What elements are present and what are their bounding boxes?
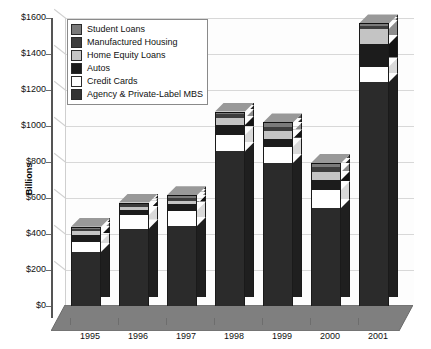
legend-item: Credit Cards: [71, 75, 203, 88]
bar-segment: [119, 210, 149, 215]
bar-2000: [311, 18, 341, 306]
bar-top-edge: [263, 122, 293, 123]
x-axis-tick-mark: [70, 318, 71, 325]
bar-segment-side: [197, 217, 206, 297]
bar-segment: [359, 44, 389, 67]
bar-segment-side: [101, 243, 110, 297]
y-axis-tick-mark: [46, 198, 51, 199]
bar-segment: [263, 127, 293, 132]
chart-legend: Student LoansManufactured HousingHome Eq…: [67, 19, 208, 105]
y-axis-tick-mark: [46, 270, 51, 271]
y-axis-tick-label: $1600: [6, 13, 46, 22]
gridline-depth: [54, 81, 66, 91]
bar-segment: [263, 131, 293, 138]
x-axis-tick-mark: [358, 318, 359, 325]
bar-segment: [215, 114, 245, 118]
bar-segment: [263, 147, 293, 163]
y-axis-tick-label: $1200: [6, 85, 46, 94]
gridline-depth: [54, 189, 66, 199]
y-axis-tick-label: $200: [6, 265, 46, 274]
bar-top-edge: [167, 195, 197, 196]
y-axis-tick-mark: [46, 54, 51, 55]
gridline-depth: [54, 117, 66, 127]
bar-segment: [119, 204, 149, 207]
bar-segment: [359, 29, 389, 44]
y-axis-tick-mark: [46, 90, 51, 91]
x-axis-tick-mark: [166, 318, 167, 325]
legend-item: Home Equity Loans: [71, 49, 203, 62]
bar-segment: [359, 26, 389, 29]
x-axis-tick-mark: [214, 318, 215, 325]
bar-segment: [167, 198, 197, 201]
y-axis-tick-label: $800: [6, 157, 46, 166]
bar-segment: [215, 151, 245, 306]
bar-segment-side: [245, 142, 254, 297]
bar-top-edge: [215, 112, 245, 113]
gridline-depth: [54, 153, 66, 163]
y-axis-tick-label: $1400: [6, 49, 46, 58]
bar-1998: [215, 18, 245, 306]
bar-segment: [311, 167, 341, 172]
x-axis-tick-label: 1999: [255, 331, 309, 341]
bar-segment: [71, 235, 101, 242]
bar-segment: [167, 201, 197, 205]
legend-swatch-icon: [71, 50, 82, 61]
legend-item-label: Agency & Private-Label MBS: [87, 90, 203, 99]
bar-segment: [311, 190, 341, 208]
legend-item: Student Loans: [71, 23, 203, 36]
bar-segment: [215, 125, 245, 135]
bar-segment: [71, 231, 101, 235]
bar-segment: [119, 229, 149, 306]
y-axis-tick-mark: [46, 234, 51, 235]
x-axis-tick-label: 1996: [111, 331, 165, 341]
x-axis-tick-label: 2000: [303, 331, 357, 341]
gridline-depth: [54, 261, 66, 271]
bar-segment-side: [341, 199, 350, 297]
y-axis-tick-mark: [46, 306, 51, 307]
bar-segment-side: [389, 73, 398, 297]
x-axis-tick-mark: [310, 318, 311, 325]
legend-item-label: Credit Cards: [87, 77, 138, 86]
bar-top-edge: [311, 163, 341, 164]
legend-swatch-icon: [71, 24, 82, 35]
gridline-depth: [54, 225, 66, 235]
gridline-depth: [54, 9, 66, 19]
bar-segment-side: [149, 220, 158, 297]
x-axis-tick-label: 2001: [351, 331, 405, 341]
bar-1999: [263, 18, 293, 306]
bar-segment: [263, 163, 293, 306]
gridline-depth: [54, 45, 66, 55]
y-axis-tick-label: $1000: [6, 121, 46, 130]
bar-segment: [359, 82, 389, 306]
legend-swatch-icon: [71, 76, 82, 87]
x-axis-tick-label: 1998: [207, 331, 261, 341]
x-axis-tick-label: 1997: [159, 331, 213, 341]
bar-segment: [311, 208, 341, 306]
bar-2001: [359, 18, 389, 306]
bar-segment: [311, 180, 341, 190]
y-axis-tick-label: $0: [6, 301, 46, 310]
bar-segment: [167, 226, 197, 306]
bar-segment: [119, 207, 149, 210]
bar-top-edge: [359, 23, 389, 24]
bar-segment: [71, 229, 101, 232]
bar-segment: [215, 135, 245, 151]
bar-top-edge: [119, 203, 149, 204]
legend-item-label: Home Equity Loans: [87, 51, 166, 60]
legend-swatch-icon: [71, 37, 82, 48]
y-axis-tick-mark: [46, 18, 51, 19]
y-axis-tick-labels: $0$200$400$600$800$1000$1200$1400$1600: [0, 0, 46, 349]
bar-segment-side: [293, 154, 302, 297]
bar-segment: [167, 204, 197, 210]
legend-swatch-icon: [71, 63, 82, 74]
x-axis-tick-label: 1995: [63, 331, 117, 341]
bar-segment: [71, 242, 101, 252]
bar-segment: [119, 215, 149, 229]
y-axis-tick-mark: [46, 162, 51, 163]
stacked-bar-chart: Billions $0$200$400$600$800$1000$1200$14…: [0, 0, 431, 349]
y-axis-tick-mark: [46, 126, 51, 127]
bar-segment: [71, 252, 101, 306]
legend-item-label: Student Loans: [87, 25, 145, 34]
bar-segment: [167, 211, 197, 226]
legend-item: Autos: [71, 62, 203, 75]
